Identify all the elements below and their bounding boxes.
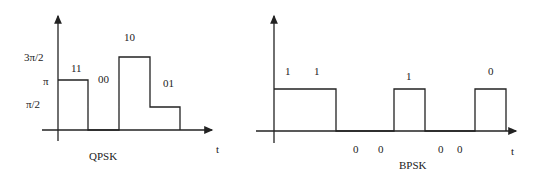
qpsk-chart: 3π/2 π π/2 11 00 10 01 t QPSK bbox=[24, 16, 219, 162]
bpsk-waveform bbox=[274, 89, 506, 131]
qpsk-t-label: t bbox=[216, 143, 219, 155]
qpsk-title: QPSK bbox=[89, 150, 117, 162]
bpsk-chart: 1 1 1 0 0 0 0 0 t BPSK bbox=[256, 16, 516, 171]
bpsk-title: BPSK bbox=[399, 159, 427, 171]
qpsk-ytick-3pi2: 3π/2 bbox=[24, 51, 44, 63]
bpsk-bit-top: 1 bbox=[314, 65, 320, 77]
qpsk-bit-label: 01 bbox=[163, 77, 174, 89]
qpsk-ytick-pi: π bbox=[43, 75, 49, 87]
bpsk-bit-bottom: 0 bbox=[457, 143, 463, 155]
bpsk-bit-top: 0 bbox=[488, 65, 494, 77]
qpsk-bit-label: 10 bbox=[124, 31, 136, 43]
bpsk-bit-bottom: 0 bbox=[378, 143, 384, 155]
bpsk-bit-bottom: 0 bbox=[438, 143, 444, 155]
bpsk-bit-bottom: 0 bbox=[353, 143, 359, 155]
bpsk-bit-top: 1 bbox=[285, 65, 291, 77]
bpsk-bit-top: 1 bbox=[406, 70, 412, 82]
qpsk-ytick-pi2: π/2 bbox=[26, 98, 40, 110]
qpsk-bit-label: 00 bbox=[98, 73, 110, 85]
bpsk-t-label: t bbox=[511, 145, 514, 157]
qpsk-bit-label: 11 bbox=[71, 62, 82, 74]
modulation-diagram: 3π/2 π π/2 11 00 10 01 t QPSK 1 1 1 0 0 … bbox=[0, 0, 535, 183]
